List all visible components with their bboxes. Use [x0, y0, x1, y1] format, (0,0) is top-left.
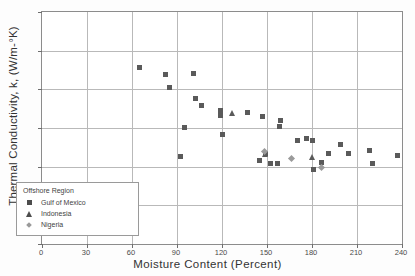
legend-item-nigeria: Nigeria [22, 219, 133, 230]
x-gridline [357, 12, 358, 244]
data-point [287, 155, 294, 162]
x-tick-label: 60 [118, 249, 144, 257]
x-tick-label: 120 [208, 249, 234, 257]
data-point [245, 110, 250, 115]
x-tick-label: 240 [388, 249, 414, 257]
y-tick [38, 128, 42, 129]
y-tick [38, 89, 42, 90]
data-point [137, 65, 142, 70]
x-tick-label: 30 [73, 249, 99, 257]
data-point [346, 151, 351, 156]
data-point [295, 138, 300, 143]
data-point [260, 114, 265, 119]
data-point [311, 167, 316, 172]
x-gridline [222, 12, 223, 244]
data-point [304, 136, 309, 141]
data-point [193, 96, 198, 101]
square-marker-icon [22, 200, 36, 205]
data-point [182, 125, 187, 130]
chart-figure: Thermal Conductivity, k, (W/m-°K) Moistu… [0, 0, 415, 276]
legend-label: Nigeria [36, 221, 63, 228]
data-point [367, 148, 372, 153]
y-tick [38, 12, 42, 13]
data-point [257, 158, 262, 163]
data-point [199, 103, 204, 108]
legend-item-indonesia: Indonesia [22, 208, 133, 219]
data-point [218, 113, 223, 118]
data-point [326, 151, 331, 156]
legend-title: Offshore Region [23, 187, 133, 194]
x-gridline [267, 12, 268, 244]
data-point [278, 118, 283, 123]
x-axis-title: Moisture Content (Percent) [0, 258, 415, 270]
x-gridline [312, 12, 313, 244]
legend-label: Gulf of Mexico [36, 199, 86, 206]
data-point [268, 161, 273, 166]
data-point [395, 153, 400, 158]
data-point [167, 85, 172, 90]
x-gridline [177, 12, 178, 244]
legend-label: Indonesia [36, 210, 71, 217]
y-tick [38, 167, 42, 168]
data-point [275, 161, 280, 166]
data-point [220, 132, 225, 137]
x-tick-label: 150 [253, 249, 279, 257]
triangle-marker-icon [22, 211, 36, 217]
data-point [163, 72, 168, 77]
data-point [309, 154, 315, 160]
y-tick [38, 51, 42, 52]
x-tick-label: 90 [163, 249, 189, 257]
diamond-marker-icon [22, 223, 36, 227]
data-point [277, 124, 282, 129]
x-tick-label: 210 [343, 249, 369, 257]
data-point [310, 138, 315, 143]
data-point [338, 142, 343, 147]
legend-item-gulf-of-mexico: Gulf of Mexico [22, 197, 133, 208]
x-tick-label: 180 [298, 249, 324, 257]
x-tick-label: 0 [28, 249, 54, 257]
data-point [191, 71, 196, 76]
data-point [229, 110, 235, 116]
data-point [370, 161, 375, 166]
chart-legend: Offshore Region Gulf of Mexico Indonesia… [16, 182, 139, 236]
data-point [317, 164, 324, 171]
data-point [178, 154, 183, 159]
